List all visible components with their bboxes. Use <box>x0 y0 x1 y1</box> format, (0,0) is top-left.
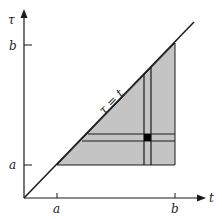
t-axis-arrow-icon <box>197 195 206 202</box>
t-axis-label: t <box>209 191 214 205</box>
tau-axis-label: τ <box>8 13 15 27</box>
tau-axis-arrow-icon <box>21 9 28 18</box>
integration-region-diagram: τ b a a b t τ = t <box>0 0 222 219</box>
t-tick-label-a: a <box>53 202 60 216</box>
tau-tick-label-a: a <box>9 158 16 172</box>
tau-tick-label-b: b <box>9 39 17 53</box>
area-element-cell <box>144 134 151 141</box>
t-tick-label-b: b <box>171 202 179 216</box>
